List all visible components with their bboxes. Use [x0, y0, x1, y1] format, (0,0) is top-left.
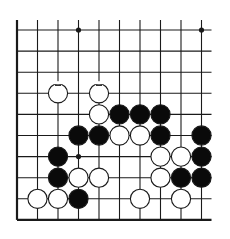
star-point	[199, 27, 204, 32]
star-point	[76, 27, 81, 32]
white-stone	[28, 189, 47, 208]
stone-gap	[95, 81, 103, 84]
star-point	[76, 154, 81, 159]
black-stone	[130, 105, 149, 124]
black-stone	[151, 105, 170, 124]
white-stone	[69, 168, 88, 187]
white-stone	[89, 168, 108, 187]
white-stone	[130, 189, 149, 208]
white-stone	[151, 147, 170, 166]
black-stone	[48, 168, 67, 187]
black-stone	[69, 126, 88, 145]
black-stone	[89, 126, 108, 145]
white-stone	[110, 126, 129, 145]
white-stone	[89, 84, 108, 103]
stone-gap	[54, 81, 62, 84]
black-stone	[192, 126, 211, 145]
black-stone	[48, 147, 67, 166]
black-stone	[69, 189, 88, 208]
go-board	[0, 0, 230, 239]
white-stone	[48, 189, 67, 208]
white-stone	[151, 168, 170, 187]
black-stone	[110, 105, 129, 124]
white-stone	[171, 189, 190, 208]
white-stone	[130, 126, 149, 145]
black-stone	[171, 168, 190, 187]
black-stone	[192, 147, 211, 166]
white-stone	[48, 84, 67, 103]
white-stone	[171, 147, 190, 166]
white-stone	[89, 105, 108, 124]
black-stone	[192, 168, 211, 187]
black-stone	[151, 126, 170, 145]
